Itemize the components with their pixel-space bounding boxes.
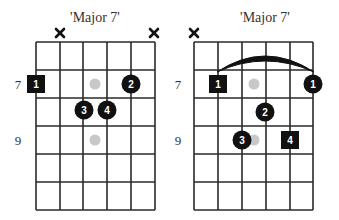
- muted-string-icon: [150, 29, 158, 37]
- svg-text:1: 1: [215, 79, 221, 90]
- fretboard-grid: [194, 42, 313, 210]
- fret-number-label: 9: [175, 133, 182, 148]
- finger-marker-root: 1: [209, 75, 227, 93]
- svg-text:2: 2: [262, 107, 268, 118]
- finger-marker: 2: [122, 75, 141, 94]
- fretboard-grid: [36, 42, 155, 210]
- finger-marker: 4: [98, 101, 117, 120]
- svg-text:4: 4: [104, 105, 110, 116]
- finger-marker: 1: [304, 75, 323, 94]
- chord-diagrams: 'Major 7' 7 9 1: [0, 0, 339, 220]
- chord-title: 'Major 7': [70, 10, 120, 25]
- fret-number-label: 7: [15, 77, 22, 92]
- chord-diagram-right: 'Major 7' 7 9 1: [175, 10, 323, 210]
- muted-string-icon: [56, 29, 64, 37]
- svg-text:1: 1: [33, 79, 39, 90]
- fret-number-label: 9: [15, 133, 22, 148]
- inlay-dot: [90, 79, 101, 90]
- inlay-dot: [90, 135, 101, 146]
- chord-diagram-left: 'Major 7' 7 9 1: [15, 10, 158, 210]
- svg-text:3: 3: [239, 135, 245, 146]
- finger-marker: 3: [75, 101, 94, 120]
- svg-text:3: 3: [81, 105, 87, 116]
- svg-text:2: 2: [128, 79, 134, 90]
- finger-marker: 3: [233, 131, 252, 150]
- muted-string-icon: [190, 29, 198, 37]
- svg-text:4: 4: [287, 135, 293, 146]
- chord-title: 'Major 7': [240, 10, 290, 25]
- fret-number-label: 7: [175, 77, 182, 92]
- finger-marker: 2: [256, 103, 275, 122]
- finger-marker-root: 1: [27, 75, 45, 93]
- svg-text:1: 1: [310, 79, 316, 90]
- inlay-dot: [249, 79, 260, 90]
- finger-marker-root: 4: [281, 131, 299, 149]
